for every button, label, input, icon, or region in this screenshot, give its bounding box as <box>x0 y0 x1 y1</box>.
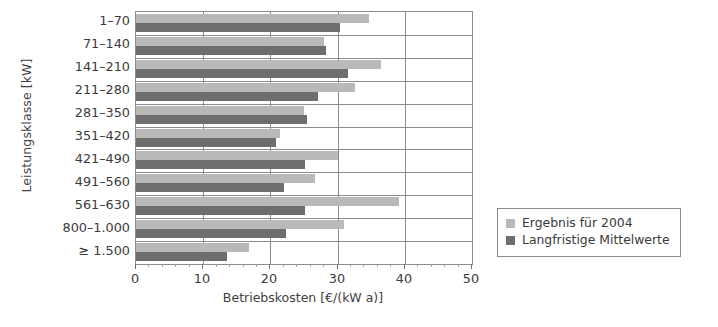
x-axis-tick-label: 50 <box>451 271 491 286</box>
x-axis-tick-label: 30 <box>317 271 357 286</box>
bar-group <box>136 150 472 173</box>
y-axis-tick-label: 800–1.000 <box>20 222 130 235</box>
x-axis-tick-label: 0 <box>115 271 155 286</box>
bar-group <box>136 219 472 242</box>
legend-swatch-icon <box>506 219 515 228</box>
bar-langfristige-mittelwerte <box>136 69 348 78</box>
bar-group <box>136 128 472 151</box>
x-axis-minor-tick <box>377 264 378 267</box>
bar-langfristige-mittelwerte <box>136 160 305 169</box>
bar-series-container <box>136 12 472 264</box>
bar-ergebnis-2004 <box>136 220 344 229</box>
x-axis-minor-tick <box>283 264 284 267</box>
legend-item-label: Ergebnis für 2004 <box>522 217 633 229</box>
bar-langfristige-mittelwerte <box>136 206 305 215</box>
x-axis-tick-mark <box>269 264 270 269</box>
bar-ergebnis-2004 <box>136 37 324 46</box>
legend-item: Ergebnis für 2004 <box>506 215 670 232</box>
bar-group <box>136 36 472 59</box>
y-axis-tick-labels: 1–7071–140141–210211–280281–350351–42042… <box>20 11 130 263</box>
bar-ergebnis-2004 <box>136 60 381 69</box>
x-axis-minor-tick <box>256 264 257 267</box>
y-axis-tick-label: 561–630 <box>20 199 130 212</box>
bar-langfristige-mittelwerte <box>136 252 227 261</box>
y-axis-tick-label: 211–280 <box>20 84 130 97</box>
bar-langfristige-mittelwerte <box>136 229 286 238</box>
y-axis-tick-label: 1–70 <box>20 15 130 28</box>
bar-group <box>136 105 472 128</box>
bar-langfristige-mittelwerte <box>136 115 307 124</box>
x-axis-tick-mark <box>471 264 472 269</box>
bar-group <box>136 82 472 105</box>
x-axis-minor-tick <box>444 264 445 267</box>
y-axis-tick-label: ≥ 1.500 <box>20 245 130 258</box>
bar-ergebnis-2004 <box>136 151 338 160</box>
x-axis-tick-mark <box>202 264 203 269</box>
x-axis-minor-tick <box>175 264 176 267</box>
x-axis-minor-tick <box>296 264 297 267</box>
x-axis-ticks: 01020304050 <box>135 264 471 290</box>
legend-item-label: Langfristige Mittelwerte <box>522 234 670 246</box>
legend-swatch-icon <box>506 236 515 245</box>
bar-chart-figure: Leistungsklasse [kW] 1–7071–140141–21021… <box>0 0 718 327</box>
x-axis-minor-tick <box>162 264 163 267</box>
y-axis-tick-label: 141–210 <box>20 61 130 74</box>
x-axis-tick-label: 10 <box>182 271 222 286</box>
bar-ergebnis-2004 <box>136 83 355 92</box>
bar-ergebnis-2004 <box>136 106 304 115</box>
x-axis-tick-mark <box>337 264 338 269</box>
bar-group <box>136 173 472 196</box>
legend-item: Langfristige Mittelwerte <box>506 232 670 249</box>
bar-group <box>136 242 472 265</box>
x-axis-minor-tick <box>148 264 149 267</box>
bar-ergebnis-2004 <box>136 197 399 206</box>
bar-ergebnis-2004 <box>136 14 369 23</box>
bar-langfristige-mittelwerte <box>136 23 340 32</box>
y-axis-tick-label: 281–350 <box>20 107 130 120</box>
x-axis-tick-mark <box>404 264 405 269</box>
chart-legend: Ergebnis für 2004Langfristige Mittelwert… <box>497 208 681 257</box>
x-axis-tick-label: 20 <box>249 271 289 286</box>
y-axis-tick-label: 71–140 <box>20 38 130 51</box>
bar-langfristige-mittelwerte <box>136 46 326 55</box>
x-axis-tick-mark <box>135 264 136 269</box>
bar-langfristige-mittelwerte <box>136 138 276 147</box>
x-axis-minor-tick <box>243 264 244 267</box>
x-axis-minor-tick <box>350 264 351 267</box>
bar-langfristige-mittelwerte <box>136 183 284 192</box>
y-axis-tick-label: 351–420 <box>20 130 130 143</box>
x-axis-minor-tick <box>310 264 311 267</box>
bar-ergebnis-2004 <box>136 243 249 252</box>
x-axis-minor-tick <box>458 264 459 267</box>
x-axis-minor-tick <box>323 264 324 267</box>
x-axis-minor-tick <box>390 264 391 267</box>
x-axis-minor-tick <box>363 264 364 267</box>
bar-group <box>136 13 472 36</box>
x-axis-title: Betriebskosten [€/(kW a)] <box>135 290 471 305</box>
x-axis-minor-tick <box>431 264 432 267</box>
bar-group <box>136 59 472 82</box>
y-axis-tick-label: 491–560 <box>20 176 130 189</box>
x-axis-minor-tick <box>417 264 418 267</box>
x-axis-tick-label: 40 <box>384 271 424 286</box>
x-axis-minor-tick <box>229 264 230 267</box>
plot-area <box>135 11 473 265</box>
bar-langfristige-mittelwerte <box>136 92 318 101</box>
bar-ergebnis-2004 <box>136 174 315 183</box>
bar-ergebnis-2004 <box>136 129 280 138</box>
x-axis-minor-tick <box>189 264 190 267</box>
x-axis-minor-tick <box>216 264 217 267</box>
bar-group <box>136 196 472 219</box>
y-axis-tick-label: 421–490 <box>20 153 130 166</box>
